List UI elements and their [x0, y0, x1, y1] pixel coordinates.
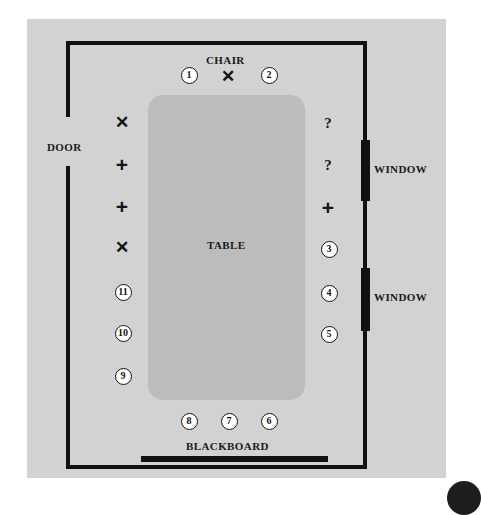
- wall-left-lower: [66, 166, 70, 469]
- seat-7[interactable]: 7: [221, 413, 238, 430]
- seat-8[interactable]: 8: [181, 413, 198, 430]
- seat-10[interactable]: 10: [115, 325, 132, 342]
- seat-4[interactable]: 4: [321, 285, 338, 302]
- door-label: DOOR: [47, 142, 82, 153]
- left-mark-plus-1[interactable]: +: [112, 154, 132, 174]
- chair-x[interactable]: ✕: [218, 66, 238, 86]
- left-mark-plus-2[interactable]: +: [112, 196, 132, 216]
- blackboard-label: BLACKBOARD: [186, 441, 269, 452]
- seat-1[interactable]: 1: [181, 67, 198, 84]
- left-mark-x-1[interactable]: ✕: [112, 112, 132, 132]
- table-label: TABLE: [207, 240, 245, 251]
- chair-label: CHAIR: [206, 55, 245, 66]
- seat-3[interactable]: 3: [321, 241, 338, 258]
- right-mark-q-2[interactable]: ?: [318, 155, 338, 175]
- wall-bottom: [66, 465, 367, 469]
- blackboard-bar: [141, 456, 328, 462]
- right-mark-q-1[interactable]: ?: [318, 113, 338, 133]
- wall-right: [363, 41, 367, 469]
- window-label-bottom: WINDOW: [374, 292, 427, 303]
- window-bar-top: [361, 140, 370, 201]
- seat-2[interactable]: 2: [261, 67, 278, 84]
- left-mark-x-2[interactable]: ✕: [112, 237, 132, 257]
- wall-left-upper: [66, 41, 70, 117]
- seat-11[interactable]: 11: [115, 284, 132, 301]
- wall-top: [66, 41, 367, 45]
- window-bar-bottom: [361, 268, 370, 331]
- right-mark-plus-1[interactable]: +: [318, 197, 338, 217]
- seat-6[interactable]: 6: [261, 413, 278, 430]
- window-label-top: WINDOW: [374, 164, 427, 175]
- seat-9[interactable]: 9: [115, 368, 132, 385]
- corner-artifact: [447, 481, 481, 515]
- seat-5[interactable]: 5: [321, 326, 338, 343]
